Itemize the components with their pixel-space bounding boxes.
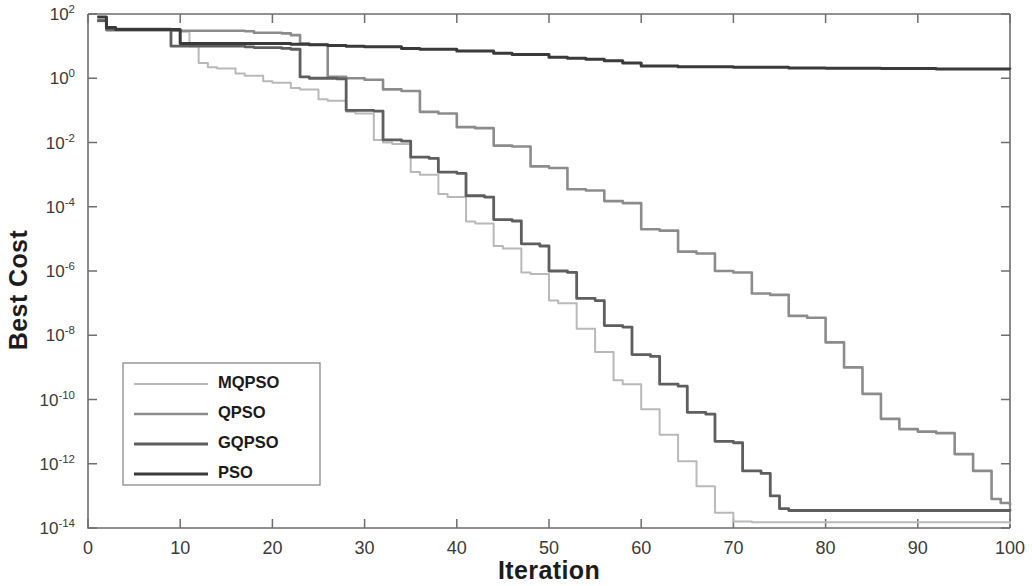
y-tick-label: 10-10 — [39, 389, 75, 410]
x-tick-label: 70 — [723, 538, 743, 558]
chart-legend: MQPSOQPSOGQPSOPSO — [123, 363, 320, 485]
y-tick-label: 10-6 — [46, 260, 75, 281]
y-axis-title: Best Cost — [4, 230, 32, 351]
x-tick-label: 0 — [83, 538, 93, 558]
x-tick-label: 20 — [262, 538, 282, 558]
x-axis-title: Iteration — [498, 556, 600, 584]
x-tick-label: 80 — [816, 538, 836, 558]
x-tick-label: 60 — [631, 538, 651, 558]
y-tick-label: 10-4 — [46, 196, 76, 217]
legend-label-pso: PSO — [218, 463, 253, 481]
legend-label-qpso: QPSO — [218, 403, 266, 421]
y-tick-label: 10-14 — [39, 517, 75, 538]
x-tick-label: 100 — [995, 538, 1025, 558]
y-tick-label: 100 — [50, 67, 75, 88]
y-tick-label: 10-12 — [39, 453, 75, 474]
x-tick-label: 90 — [908, 538, 928, 558]
best-cost-convergence-chart: 10210010-210-410-610-810-1010-1210-14 01… — [0, 0, 1032, 586]
y-tick-label: 10-2 — [46, 132, 75, 153]
y-tick-label: 102 — [50, 3, 75, 24]
chart-figure: 10210010-210-410-610-810-1010-1210-14 01… — [0, 0, 1032, 586]
x-tick-label: 10 — [170, 538, 190, 558]
x-tick-label: 40 — [447, 538, 467, 558]
y-axis-tick-labels: 10210010-210-410-610-810-1010-1210-14 — [39, 3, 75, 538]
legend-label-gqpso: GQPSO — [218, 433, 279, 451]
series-line-pso — [97, 17, 1010, 69]
x-tick-label: 50 — [539, 538, 559, 558]
x-tick-label: 30 — [355, 538, 375, 558]
y-tick-label: 10-8 — [46, 324, 75, 345]
legend-label-mqpso: MQPSO — [218, 373, 280, 391]
x-axis-tick-labels: 0102030405060708090100 — [83, 538, 1025, 558]
